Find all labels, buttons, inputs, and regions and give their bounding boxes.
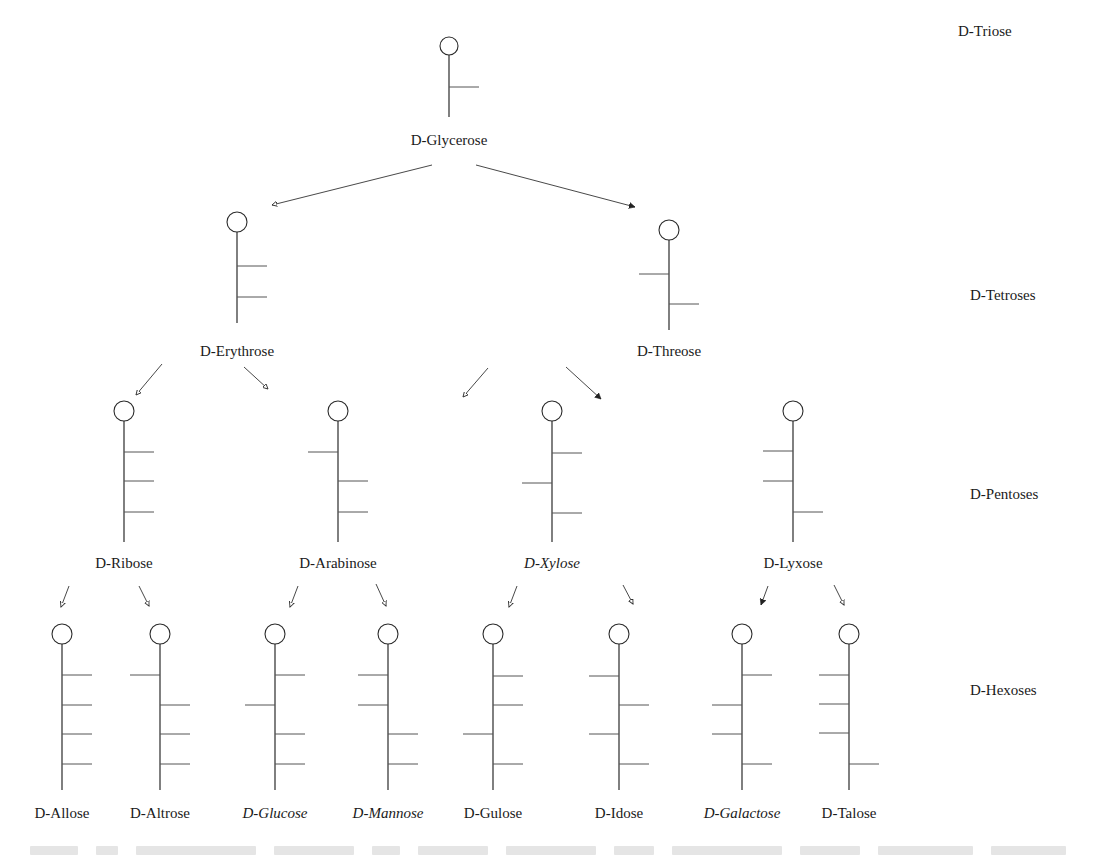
arrow-glycerose-to-erythrose — [272, 165, 432, 205]
molecule-allose: D-Allose — [35, 624, 93, 821]
molecule-arabinose: D-Arabinose — [299, 401, 377, 571]
level-label-tetrose: D-Tetroses — [970, 287, 1036, 303]
aldehyde-circle-icon — [114, 401, 134, 421]
molecule-erythrose: D-Erythrose — [200, 212, 274, 359]
derivation-arrows — [61, 165, 844, 607]
level-labels: D-TrioseD-TetrosesD-PentosesD-Hexoses — [958, 23, 1038, 698]
aldehyde-circle-icon — [542, 401, 562, 421]
arrow-arabinose-to-mannose — [376, 584, 386, 606]
molecule-glycerose: D-Glycerose — [411, 37, 488, 148]
molecule-galactose: D-Galactose — [703, 624, 781, 821]
sugar-name-label: D-Erythrose — [200, 343, 274, 359]
level-label-triose: D-Triose — [958, 23, 1012, 39]
sugar-name-label: D-Talose — [822, 805, 877, 821]
molecule-ribose: D-Ribose — [95, 401, 154, 571]
aldehyde-circle-icon — [150, 624, 170, 644]
arrow-ribose-to-altrose — [139, 586, 149, 606]
aldehyde-circle-icon — [227, 212, 247, 232]
aldehyde-circle-icon — [839, 624, 859, 644]
molecule-gulose: D-Gulose — [463, 624, 523, 821]
sugar-name-label: D-Galactose — [703, 805, 781, 821]
molecule-mannose: D-Mannose — [352, 624, 424, 821]
arrow-lyxose-to-galactose — [761, 586, 768, 605]
sugar-name-label: D-Idose — [595, 805, 644, 821]
molecule-glucose: D-Glucose — [242, 624, 308, 821]
aldehyde-circle-icon — [328, 401, 348, 421]
arrow-lyxose-to-talose — [834, 585, 844, 605]
sugar-name-label: D-Arabinose — [299, 555, 377, 571]
sugar-name-label: D-Glycerose — [411, 132, 488, 148]
arrow-xylose-to-idose — [623, 585, 633, 604]
aldose-family-tree-diagram: D-GlyceroseD-ErythroseD-ThreoseD-RiboseD… — [0, 0, 1097, 855]
arrow-erythrose-to-arabinose — [244, 367, 268, 389]
sugar-name-label: D-Threose — [637, 343, 701, 359]
aldehyde-circle-icon — [440, 37, 458, 55]
aldehyde-circle-icon — [609, 624, 629, 644]
sugar-name-label: D-Glucose — [242, 805, 308, 821]
level-label-pentose: D-Pentoses — [970, 486, 1038, 502]
aldehyde-circle-icon — [265, 624, 285, 644]
arrow-threose-to-lyxose — [566, 367, 601, 399]
sugar-name-label: D-Allose — [35, 805, 90, 821]
arrow-xylose-to-gulose — [509, 586, 517, 607]
sugar-name-label: D-Mannose — [352, 805, 424, 821]
aldehyde-circle-icon — [783, 401, 803, 421]
aldehyde-circle-icon — [378, 624, 398, 644]
sugar-name-label: D-Altrose — [130, 805, 190, 821]
molecule-talose: D-Talose — [819, 624, 879, 821]
sugar-name-label: D-Xylose — [523, 555, 580, 571]
level-label-hexose: D-Hexoses — [970, 682, 1037, 698]
aldehyde-circle-icon — [659, 220, 679, 240]
molecule-threose: D-Threose — [637, 220, 701, 359]
arrow-arabinose-to-glucose — [290, 586, 298, 607]
arrow-ribose-to-allose — [61, 586, 69, 607]
sugar-name-label: D-Lyxose — [763, 555, 823, 571]
arrow-threose-to-xylose — [463, 368, 488, 397]
sugar-name-label: D-Gulose — [464, 805, 523, 821]
sugar-name-label: D-Ribose — [95, 555, 153, 571]
molecule-lyxose: D-Lyxose — [763, 401, 823, 571]
arrow-erythrose-to-ribose — [136, 364, 162, 395]
molecule-altrose: D-Altrose — [130, 624, 190, 821]
cut-off-figure-caption — [30, 846, 1070, 855]
molecule-xylose: D-Xylose — [522, 401, 582, 571]
aldehyde-circle-icon — [732, 624, 752, 644]
molecule-idose: D-Idose — [589, 624, 649, 821]
aldehyde-circle-icon — [52, 624, 72, 644]
arrow-glycerose-to-threose — [476, 165, 635, 207]
molecule-structures: D-GlyceroseD-ErythroseD-ThreoseD-RiboseD… — [35, 37, 880, 821]
aldehyde-circle-icon — [483, 624, 503, 644]
